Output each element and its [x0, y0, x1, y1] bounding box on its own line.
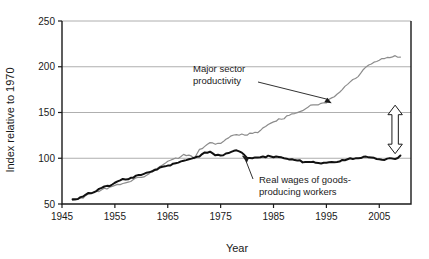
y-tick-label: 200	[38, 61, 55, 72]
x-tick-label: 1985	[262, 211, 285, 222]
productivity-annotation-line2: productivity	[193, 75, 241, 86]
y-tick-label: 50	[44, 199, 56, 210]
y-tick-label: 150	[38, 107, 55, 118]
x-axis-title: Year	[226, 242, 249, 254]
line-chart: 50100150200250 1945195519651975198519952…	[0, 0, 429, 259]
x-tick-label: 2005	[368, 211, 391, 222]
y-tick-label: 100	[38, 153, 55, 164]
productivity-annotation-line1: Major sector	[193, 63, 245, 74]
wages-annotation-line1: Real wages of goods-	[259, 174, 351, 185]
x-tick-label: 1995	[315, 211, 338, 222]
y-axis-title: Index relative to 1970	[4, 67, 16, 172]
x-tick-label: 1955	[104, 211, 127, 222]
x-tick-label: 1945	[51, 211, 74, 222]
x-tick-label: 1965	[157, 211, 180, 222]
chart-figure: 50100150200250 1945195519651975198519952…	[0, 0, 429, 259]
wages-annotation-line2: producing workers	[259, 186, 337, 197]
y-tick-label: 250	[38, 16, 55, 27]
x-tick-label: 1975	[210, 211, 233, 222]
